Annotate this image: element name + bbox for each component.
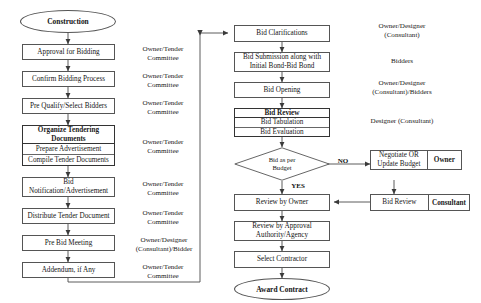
pair-actor-owner: Owner <box>428 151 461 169</box>
responsibility-bid-notification: Owner/Tender Committee <box>122 180 204 198</box>
node-approval-for-bidding: Approval for Bidding <box>22 44 115 60</box>
node-bid-submission-initial-bond: Bid Submission along with Initial Bond-B… <box>234 52 330 72</box>
node-select-contractor: Select Contractor <box>234 251 330 268</box>
decision-bid-as-per-budget: Bid as per Budget <box>234 147 330 181</box>
responsibility-pre-bid-meeting: Owner/Designer (Consultant)/Bidder <box>118 236 210 254</box>
responsibility-pre-qualify-select-bidders: Owner/Tender Committee <box>122 99 204 117</box>
stack-head-bid-review: Bid Review <box>235 109 329 118</box>
stack-row-bid-evaluation: Bid Evaluation <box>235 128 329 136</box>
start-node-construction: Construction <box>20 10 116 33</box>
node-distribute-tender-document: Distribute Tender Document <box>22 208 115 224</box>
responsibility-addendum-if-any: Owner/Tender Committee <box>122 263 204 281</box>
node-organize-tendering-documents: Organize Tendering Documents Prepare Adv… <box>22 125 115 166</box>
pair-action-bid-review: Bid Review <box>371 195 429 210</box>
node-review-by-owner: Review by Owner <box>234 194 330 211</box>
pair-bid-review-consultant: Bid Review Consultant <box>370 194 470 211</box>
branch-label-yes: YES <box>286 182 310 190</box>
node-pre-qualify-select-bidders: Pre Qualify/Select Bidders <box>22 98 115 114</box>
node-review-by-approval-authority: Review by Approval Authority/Agency <box>234 221 330 241</box>
end-node-award-contract: Award Contract <box>234 278 330 300</box>
node-bid-review-group: Bid Review Bid Tabulation Bid Evaluation <box>234 108 330 137</box>
node-addendum-if-any: Addendum, if Any <box>22 262 115 278</box>
node-bid-notification-advertisement: Bid Notification/Advertisement <box>22 177 115 197</box>
responsibility-organize-tendering-documents: Owner/Tender Committee <box>122 138 204 156</box>
pair-action-negotiate-update-budget: Negotiate OR Update Budget <box>371 151 428 169</box>
responsibility-bid-opening: Owner/Designer (Consultant)/Bidders <box>348 79 456 97</box>
stack-row-compile-tender-documents: Compile Tender Documents <box>23 155 114 165</box>
responsibility-bid-review: Designer (Consultant) <box>348 117 456 126</box>
responsibility-confirm-bidding-process: Owner/Tender Committee <box>122 72 204 90</box>
responsibility-distribute-tender-document: Owner/Tender Committee <box>122 209 204 227</box>
stack-row-bid-tabulation: Bid Tabulation <box>235 118 329 127</box>
node-bid-opening: Bid Opening <box>234 82 330 98</box>
node-pre-bid-meeting: Pre Bid Meeting <box>22 235 115 251</box>
responsibility-approval-for-bidding: Owner/Tender Committee <box>122 45 204 63</box>
responsibility-bid-clarifications: Owner/Designer (Consultant) <box>352 22 452 40</box>
pair-negotiate-or-update-budget: Negotiate OR Update Budget Owner <box>370 150 462 170</box>
node-confirm-bidding-process: Confirm Bidding Process <box>22 71 115 87</box>
stack-row-prepare-advertisement: Prepare Advertisement <box>23 144 114 155</box>
node-bid-clarifications: Bid Clarifications <box>234 25 330 42</box>
pair-actor-consultant: Consultant <box>429 195 469 210</box>
stack-head-organize-tendering-documents: Organize Tendering Documents <box>23 126 114 144</box>
decision-label: Bid as per Budget <box>234 147 330 181</box>
flowchart-canvas: Construction Approval for Bidding Confir… <box>0 0 481 303</box>
responsibility-bid-submission: Bidders <box>352 57 452 66</box>
branch-label-no: NO <box>332 157 354 165</box>
